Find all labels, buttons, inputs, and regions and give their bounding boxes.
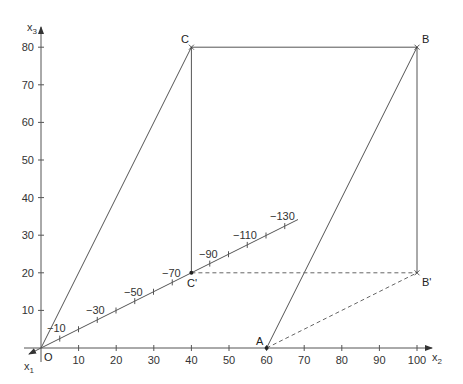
origin-label: O bbox=[44, 351, 53, 363]
edge-a-b bbox=[267, 47, 417, 348]
x1-tick-labels: −10 −30 −50 −70 −90 −110 −130 bbox=[47, 210, 295, 334]
x3-tick-label: 60 bbox=[22, 116, 34, 128]
x1-axis-label: x1 bbox=[24, 360, 35, 375]
point-a-marker bbox=[265, 346, 269, 350]
x2-tick-labels: 10 20 30 40 50 60 70 80 90 100 bbox=[72, 354, 426, 366]
x2-tick-label: 70 bbox=[298, 354, 310, 366]
x1-axis: −10 −30 −50 −70 −90 −110 −130 x1 bbox=[24, 210, 298, 375]
x1-tick-label: −30 bbox=[86, 304, 105, 316]
x2-tick-label: 60 bbox=[260, 354, 272, 366]
x3-tick-label: 50 bbox=[22, 154, 34, 166]
x2-tick-label: 40 bbox=[185, 354, 197, 366]
point-cprime-label: C' bbox=[187, 277, 197, 289]
3d-coordinate-diagram: 10 20 30 40 50 60 70 80 x3 10 20 bbox=[0, 0, 463, 384]
x2-axis: 10 20 30 40 50 60 70 80 90 100 x2 bbox=[24, 345, 443, 366]
x3-tick-label: 20 bbox=[22, 267, 34, 279]
x2-tick-label: 90 bbox=[373, 354, 385, 366]
x3-tick-label: 40 bbox=[22, 192, 34, 204]
point-b-label: B bbox=[422, 33, 429, 45]
x3-axis-label: x3 bbox=[27, 21, 38, 36]
x1-tick-label: −90 bbox=[199, 248, 218, 260]
point-bprime-label: B' bbox=[422, 276, 431, 288]
point-cprime-marker bbox=[189, 271, 193, 275]
edge-a-bprime bbox=[267, 273, 417, 348]
x1-tick-label: −110 bbox=[233, 229, 257, 241]
x2-axis-label: x2 bbox=[432, 351, 443, 366]
x2-tick-label: 50 bbox=[223, 354, 235, 366]
x1-tick-label: −50 bbox=[124, 286, 143, 298]
x2-tick-label: 10 bbox=[72, 354, 84, 366]
x2-tick-label: 20 bbox=[110, 354, 122, 366]
x3-tick-label: 10 bbox=[22, 304, 34, 316]
x2-tick-label: 100 bbox=[408, 354, 426, 366]
point-c-label: C bbox=[181, 33, 189, 45]
figure-edges bbox=[41, 47, 417, 348]
x2-tick-label: 30 bbox=[148, 354, 160, 366]
x3-tick-label: 30 bbox=[22, 229, 34, 241]
point-markers bbox=[189, 45, 420, 350]
x3-tick-labels: 10 20 30 40 50 60 70 80 bbox=[22, 41, 34, 316]
x3-axis: 10 20 30 40 50 60 70 80 x3 bbox=[22, 21, 44, 362]
point-a-label: A bbox=[256, 335, 264, 347]
edge-o-c bbox=[41, 47, 191, 348]
x2-tick-label: 80 bbox=[336, 354, 348, 366]
x1-tick-label: −10 bbox=[47, 322, 66, 334]
x3-tick-label: 70 bbox=[22, 79, 34, 91]
x1-tick-label: −130 bbox=[270, 210, 295, 222]
x1-tick-label: −70 bbox=[162, 267, 181, 279]
x3-tick-label: 80 bbox=[22, 41, 34, 53]
